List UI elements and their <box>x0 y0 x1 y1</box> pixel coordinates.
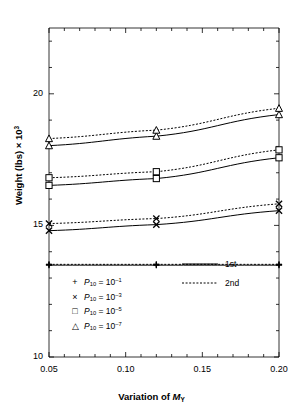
legend-marker-symbol: □ <box>69 306 81 316</box>
x-tick-label: 0.15 <box>188 364 216 374</box>
legend-style-label: 2nd <box>225 278 239 288</box>
y-tick-label: 15 <box>21 219 43 229</box>
y-tick-label: 20 <box>21 88 43 98</box>
y-axis-label-text: Weight (lbs) × 10 <box>13 130 24 206</box>
legend-marker-label: P10 = 10–5 <box>84 306 122 316</box>
legend-marker-label: P10 = 10–7 <box>84 321 122 331</box>
x-axis-label-text: Variation of <box>118 391 172 402</box>
x-tick-label: 0.10 <box>112 364 140 374</box>
legend-marker-symbol: × <box>69 292 81 302</box>
x-axis-label-subscript: Y <box>180 396 184 403</box>
chart-figure: Weight (lbs) × 103 Variation of MY 0.050… <box>0 0 303 420</box>
legend-marker-symbol: + <box>69 277 81 287</box>
y-axis-label-exponent: 3 <box>13 126 20 130</box>
marker-square <box>276 147 282 153</box>
legend-marker-label: P10 = 10–3 <box>84 292 122 302</box>
marker-square <box>276 155 282 161</box>
x-tick-label: 0.20 <box>265 364 293 374</box>
legend-marker-label: P10 = 10–1 <box>84 277 122 287</box>
marker-square <box>153 175 159 181</box>
chart-plot-area <box>0 0 303 420</box>
y-axis-label: Weight (lbs) × 103 <box>13 116 24 216</box>
x-tick-label: 0.05 <box>35 364 63 374</box>
marker-square <box>153 169 159 175</box>
x-axis-label: Variation of MY <box>0 391 303 403</box>
marker-square <box>46 182 52 188</box>
legend-marker-symbol: △ <box>69 321 81 331</box>
legend-style-label: 1st <box>225 259 236 269</box>
y-tick-label: 10 <box>21 351 43 361</box>
marker-square <box>46 175 52 181</box>
